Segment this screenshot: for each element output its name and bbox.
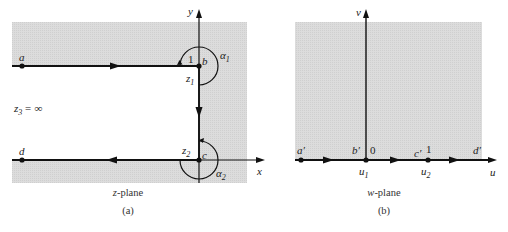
- label-u1: u1: [359, 165, 369, 180]
- x-axis-arrow-icon: [256, 157, 265, 163]
- label-c: c: [202, 149, 207, 161]
- label-d-prime: d′: [473, 144, 482, 156]
- label-d: d: [19, 145, 25, 157]
- conformal-mapping-diagram: a b c d 1 y x z1 z2 z3= ∞ α1 α2 z-plane …: [0, 0, 508, 232]
- point-b: [196, 63, 201, 68]
- point-a-prime: [298, 157, 303, 162]
- label-b: b: [202, 55, 208, 67]
- point-d: [19, 157, 24, 162]
- shaded-region-w: [295, 22, 482, 160]
- label-x-axis: x: [256, 165, 262, 177]
- label-one: 1: [426, 143, 432, 155]
- u-axis-arrow-icon: [488, 157, 497, 163]
- label-y-axis: y: [187, 5, 193, 17]
- label-v-axis: v: [356, 6, 361, 18]
- label-corner-1: 1: [188, 53, 194, 65]
- label-b-prime: b′: [352, 144, 361, 156]
- point-b-prime: [363, 157, 368, 162]
- label-zero: 0: [370, 144, 376, 156]
- point-c-prime: [425, 157, 430, 162]
- label-u-axis: u: [490, 166, 496, 178]
- v-axis-arrow-icon: [363, 9, 369, 18]
- caption-z-plane: z-plane: [112, 187, 144, 198]
- point-a: [19, 63, 24, 68]
- panel-b-w-plane: a′ b′ 0 c′ 1 d′ v u u1 u2 w-plane (b): [295, 6, 497, 217]
- label-a: a: [19, 51, 25, 63]
- label-u2: u2: [421, 165, 431, 180]
- panel-a-z-plane: a b c d 1 y x z1 z2 z3= ∞ α1 α2 z-plane …: [12, 5, 265, 217]
- label-c-prime: c′: [414, 147, 422, 159]
- caption-a: (a): [122, 205, 134, 217]
- y-axis-arrow-icon: [196, 9, 202, 18]
- caption-b: (b): [378, 205, 391, 217]
- point-c: [196, 157, 201, 162]
- caption-w-plane: w-plane: [367, 187, 401, 198]
- label-a-prime: a′: [297, 144, 306, 156]
